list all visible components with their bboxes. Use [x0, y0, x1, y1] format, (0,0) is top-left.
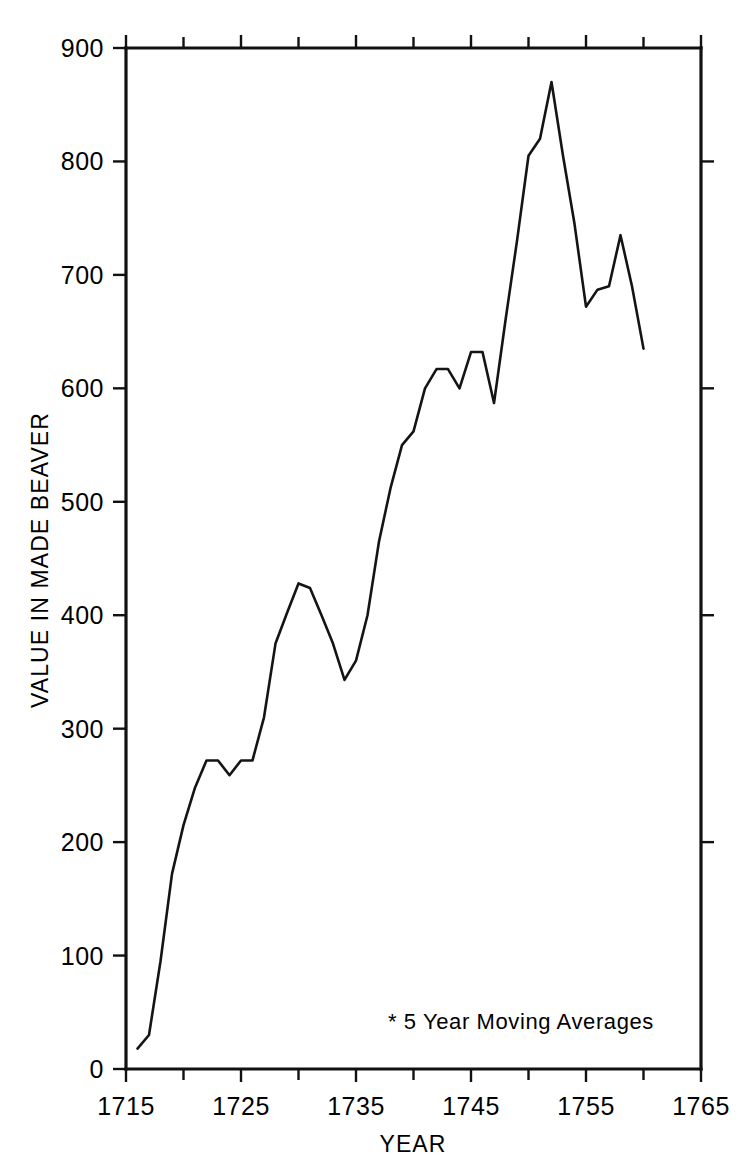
- x-axis-title: YEAR: [379, 1131, 446, 1157]
- moving-average-note: * 5 Year Moving Averages: [388, 1009, 654, 1034]
- y-tick-label-500: 500: [61, 488, 104, 516]
- y-tick-label-800: 800: [61, 147, 104, 175]
- y-tick-label-700: 700: [61, 261, 104, 289]
- data-series-group: [138, 82, 644, 1049]
- y-tick-label-600: 600: [61, 374, 104, 402]
- y-axis-title: VALUE IN MADE BEAVER: [27, 412, 53, 708]
- x-tick-label-1765: 1765: [672, 1092, 730, 1120]
- x-tick-label-1735: 1735: [327, 1092, 385, 1120]
- y-tick-label-900: 900: [61, 34, 104, 62]
- axis-ticks: [113, 35, 714, 1082]
- x-tick-label-1715: 1715: [97, 1092, 155, 1120]
- y-tick-label-200: 200: [61, 828, 104, 856]
- x-tick-label-1745: 1745: [442, 1092, 500, 1120]
- chart-figure: 0100200300400500600700800900 17151725173…: [0, 0, 754, 1171]
- y-tick-label-0: 0: [90, 1055, 104, 1083]
- y-tick-label-300: 300: [61, 715, 104, 743]
- series-line-value-in-made-beaver: [138, 82, 644, 1049]
- x-tick-label-1725: 1725: [212, 1092, 270, 1120]
- y-tick-label-100: 100: [61, 942, 104, 970]
- x-tick-label-1755: 1755: [557, 1092, 615, 1120]
- plot-frame: [126, 48, 701, 1069]
- line-chart-svg: 0100200300400500600700800900 17151725173…: [0, 0, 754, 1171]
- y-tick-labels: 0100200300400500600700800900: [61, 34, 104, 1083]
- x-tick-labels: 171517251735174517551765: [97, 1092, 730, 1120]
- y-tick-label-400: 400: [61, 601, 104, 629]
